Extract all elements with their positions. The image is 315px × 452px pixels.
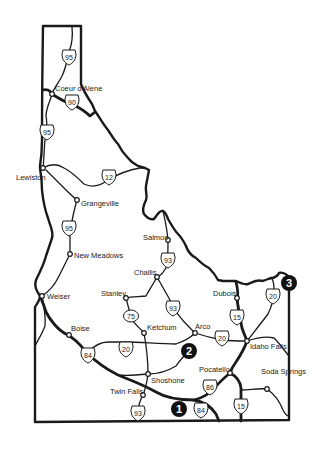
svg-text:2: 2 xyxy=(186,345,192,357)
svg-text:15: 15 xyxy=(237,403,245,410)
city-label: Shoshone xyxy=(151,376,185,385)
city-label: Idaho Falls xyxy=(250,342,287,351)
challis-stanley xyxy=(126,277,157,298)
city-label: Coeur d'Alene xyxy=(55,84,102,93)
us-20-west xyxy=(88,333,195,352)
city-labels: Coeur d'Alene Lewiston Grangeville New M… xyxy=(16,84,306,396)
svg-text:93: 93 xyxy=(169,305,177,312)
svg-text:93: 93 xyxy=(164,257,172,264)
city-label: Salmon xyxy=(143,233,168,242)
highway-shield-icon: 93 xyxy=(161,253,175,268)
city-label: Weiser xyxy=(47,292,71,301)
interstate-shield-icon: 15 xyxy=(234,399,248,414)
svg-text:95: 95 xyxy=(43,129,51,136)
highway-shield-icon: 95 xyxy=(62,221,76,236)
city-label: Lewiston xyxy=(16,173,46,182)
numbered-marker-1: 1 xyxy=(171,401,187,417)
city-dot xyxy=(68,252,73,257)
city-label: Arco xyxy=(195,322,210,331)
us-20-northeast xyxy=(247,278,274,341)
idaho-map: Coeur d'Alene Lewiston Grangeville New M… xyxy=(0,0,315,452)
highway-shield-icon: 95 xyxy=(62,50,76,65)
city-label: Ketchum xyxy=(147,323,177,332)
city-dot xyxy=(67,333,72,338)
city-dot xyxy=(265,387,270,392)
svg-text:93: 93 xyxy=(134,410,142,417)
city-dot xyxy=(193,331,198,336)
svg-text:1: 1 xyxy=(176,403,182,415)
city-label: Pocatello xyxy=(199,365,230,374)
svg-text:3: 3 xyxy=(286,277,292,289)
interstate-shield-icon: 84 xyxy=(81,348,95,363)
numbered-marker-3: 3 xyxy=(281,275,297,291)
city-label: Grangeville xyxy=(81,199,119,208)
city-dot xyxy=(245,339,250,344)
svg-text:12: 12 xyxy=(105,174,113,181)
shoshone-road xyxy=(148,352,188,374)
svg-text:15: 15 xyxy=(233,314,241,321)
city-markers xyxy=(40,92,270,398)
svg-text:95: 95 xyxy=(65,225,73,232)
svg-text:95: 95 xyxy=(65,54,73,61)
city-label: Dubois xyxy=(213,289,237,298)
interstate-shield-icon: 86 xyxy=(203,380,217,395)
svg-text:20: 20 xyxy=(218,335,226,342)
city-dot xyxy=(50,92,55,97)
city-label: Soda Springs xyxy=(261,367,306,376)
svg-text:84: 84 xyxy=(84,352,92,359)
city-dot xyxy=(40,294,45,299)
city-dot xyxy=(75,198,80,203)
svg-text:86: 86 xyxy=(206,384,214,391)
city-dot xyxy=(142,331,147,336)
numbered-marker-2: 2 xyxy=(181,343,197,359)
svg-text:20: 20 xyxy=(269,293,277,300)
city-label: Boise xyxy=(71,324,90,333)
city-label: Stanley xyxy=(101,289,126,298)
highway-shield-icon: 20 xyxy=(119,342,133,357)
city-dot xyxy=(146,372,151,377)
interstate-shield-icon: 84 xyxy=(194,403,208,418)
shoshone-west-road xyxy=(118,374,148,375)
svg-text:90: 90 xyxy=(68,99,76,106)
svg-text:84: 84 xyxy=(197,407,205,414)
state-highway-icon: 75 xyxy=(124,310,139,322)
highway-shield-icon: 20 xyxy=(215,331,229,346)
city-label: Twin Falls xyxy=(110,387,144,396)
svg-text:75: 75 xyxy=(127,313,135,320)
city-label: New Meadows xyxy=(74,251,123,260)
highway-shield-icon: 93 xyxy=(131,406,145,421)
svg-text:20: 20 xyxy=(122,346,130,353)
city-label: Challis xyxy=(134,268,157,277)
highway-shield-icon: 20 xyxy=(266,289,280,304)
city-dot xyxy=(41,166,46,171)
